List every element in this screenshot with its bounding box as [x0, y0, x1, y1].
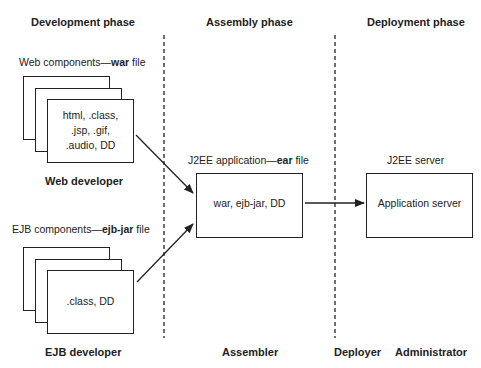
header-deployment-phase: Deployment phase	[367, 16, 465, 28]
ear-caption: J2EE application—ear file	[188, 154, 309, 166]
ejb-components-caption: EJB components—ejb-jar file	[12, 223, 150, 235]
web-content-line: .jsp, .gif,	[48, 123, 133, 138]
ejb-content: .class, DD	[48, 294, 133, 309]
server-content: Application server	[367, 196, 472, 211]
application-server-box: Application server	[366, 173, 473, 238]
web-components-caption: Web components—war file	[19, 56, 145, 68]
ear-file-box: war, ejb-jar, DD	[196, 173, 303, 238]
web-file-front: html, .class, .jsp, .gif, .audio, DD	[47, 99, 134, 163]
role-deployer: Deployer	[334, 346, 381, 358]
role-administrator: Administrator	[395, 346, 467, 358]
header-development-phase: Development phase	[31, 16, 135, 28]
ejb-file-front: .class, DD	[47, 270, 134, 334]
web-content-line: html, .class,	[48, 108, 133, 123]
role-assembler: Assembler	[222, 346, 278, 358]
web-content-line: .audio, DD	[48, 138, 133, 153]
role-ejb-developer: EJB developer	[45, 346, 121, 358]
header-assembly-phase: Assembly phase	[206, 16, 293, 28]
server-caption: J2EE server	[387, 154, 444, 166]
role-web-developer: Web developer	[45, 175, 123, 187]
ear-content: war, ejb-jar, DD	[197, 196, 302, 211]
